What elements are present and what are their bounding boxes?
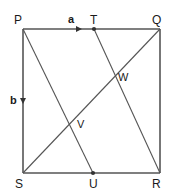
geometry-canvas	[0, 0, 174, 192]
vector-label-a: a	[68, 14, 74, 25]
geometry-diagram: P Q R S T U V W a b	[0, 0, 174, 192]
segment-pu	[23, 29, 93, 173]
segment-sq	[23, 29, 160, 173]
arrowhead-a-icon	[76, 26, 82, 32]
vertex-label-p: P	[14, 14, 22, 26]
vector-label-b: b	[10, 95, 17, 106]
intersection-label-w: W	[118, 72, 128, 83]
point-marker-u	[91, 171, 95, 175]
intersection-label-v: V	[77, 119, 84, 130]
vertex-label-r: R	[152, 178, 161, 190]
point-marker-t	[92, 27, 96, 31]
vertex-label-q: Q	[152, 14, 161, 26]
point-label-u: U	[89, 178, 98, 190]
segment-tr	[94, 29, 160, 173]
vertex-label-s: S	[15, 178, 23, 190]
arrowhead-b-icon	[20, 98, 26, 104]
point-label-t: T	[90, 14, 97, 26]
